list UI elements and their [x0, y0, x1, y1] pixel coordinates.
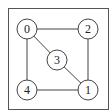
node-label: 0	[24, 22, 30, 36]
node-2: 2	[78, 19, 98, 39]
node-3: 3	[47, 50, 67, 70]
node-label: 4	[24, 83, 30, 97]
node-4: 4	[17, 80, 37, 100]
node-label: 1	[85, 83, 91, 97]
node-label: 2	[85, 22, 91, 36]
graph-diagram: 01234	[0, 0, 112, 112]
node-0: 0	[17, 19, 37, 39]
node-label: 3	[54, 53, 60, 67]
node-1: 1	[78, 80, 98, 100]
